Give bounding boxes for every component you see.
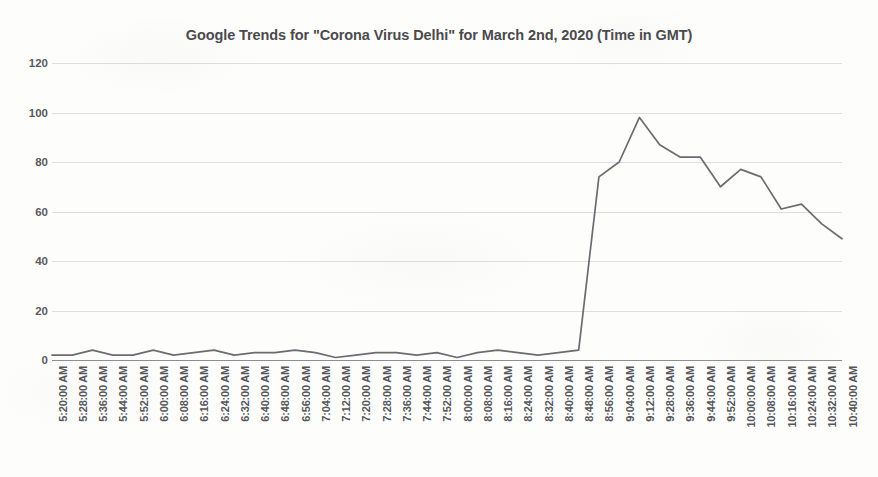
- x-tick-label: 8:00:00 AM: [462, 366, 474, 422]
- x-axis: 5:20:00 AM5:28:00 AM5:36:00 AM5:44:00 AM…: [0, 0, 878, 477]
- x-tick-label: 7:44:00 AM: [421, 366, 433, 422]
- x-tick-label: 6:08:00 AM: [178, 366, 190, 422]
- x-tick-label: 6:16:00 AM: [198, 366, 210, 422]
- x-tick-label: 6:40:00 AM: [259, 366, 271, 422]
- x-tick-label: 10:40:00 AM: [847, 366, 859, 428]
- x-tick-label: 10:00:00 AM: [745, 366, 757, 428]
- x-tick-label: 5:36:00 AM: [97, 366, 109, 422]
- x-tick-label: 8:16:00 AM: [502, 366, 514, 422]
- x-tick-label: 5:28:00 AM: [77, 366, 89, 422]
- x-tick-label: 10:32:00 AM: [826, 366, 838, 428]
- x-tick-label: 7:20:00 AM: [360, 366, 372, 422]
- x-tick-label: 6:56:00 AM: [300, 366, 312, 422]
- x-tick-label: 10:24:00 AM: [806, 366, 818, 428]
- x-tick-label: 8:32:00 AM: [543, 366, 555, 422]
- x-tick-label: 8:40:00 AM: [563, 366, 575, 422]
- x-tick-label: 7:36:00 AM: [401, 366, 413, 422]
- x-tick-label: 8:48:00 AM: [583, 366, 595, 422]
- x-tick-label: 9:36:00 AM: [684, 366, 696, 422]
- x-tick-label: 6:48:00 AM: [279, 366, 291, 422]
- chart-page: Google Trends for "Corona Virus Delhi" f…: [0, 0, 878, 477]
- x-tick-label: 5:52:00 AM: [138, 366, 150, 422]
- x-tick-label: 9:44:00 AM: [705, 366, 717, 422]
- x-tick-label: 7:12:00 AM: [340, 366, 352, 422]
- x-tick-label: 8:08:00 AM: [482, 366, 494, 422]
- x-tick-label: 9:28:00 AM: [664, 366, 676, 422]
- x-tick-label: 5:44:00 AM: [117, 366, 129, 422]
- x-tick-label: 7:28:00 AM: [381, 366, 393, 422]
- x-tick-label: 9:52:00 AM: [725, 366, 737, 422]
- x-tick-label: 5:20:00 AM: [57, 366, 69, 422]
- plot-area: 020406080100120 5:20:00 AM5:28:00 AM5:36…: [0, 0, 878, 477]
- x-tick-label: 6:00:00 AM: [158, 366, 170, 422]
- x-tick-label: 9:12:00 AM: [644, 366, 656, 422]
- x-tick-label: 8:56:00 AM: [603, 366, 615, 422]
- x-tick-label: 10:08:00 AM: [765, 366, 777, 428]
- x-tick-label: 7:52:00 AM: [441, 366, 453, 422]
- x-tick-label: 6:24:00 AM: [219, 366, 231, 422]
- x-tick-label: 8:24:00 AM: [522, 366, 534, 422]
- x-tick-label: 6:32:00 AM: [239, 366, 251, 422]
- x-tick-label: 9:04:00 AM: [624, 366, 636, 422]
- x-tick-label: 10:16:00 AM: [786, 366, 798, 428]
- x-tick-label: 7:04:00 AM: [320, 366, 332, 422]
